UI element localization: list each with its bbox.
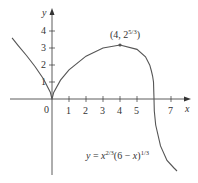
y-tick-label: 3 <box>41 42 46 53</box>
x-tick-label: 5 <box>134 105 139 116</box>
x-tick-label: 4 <box>117 105 122 116</box>
x-tick-label: 2 <box>83 105 88 116</box>
x-axis-arrow <box>184 97 191 102</box>
x-axis-label: x <box>184 103 190 114</box>
max-point-marker <box>118 43 121 46</box>
x-tick-label: 3 <box>100 105 105 116</box>
equation-label: y = x2/3(6 − x)1/3 <box>85 149 149 162</box>
chart: 1 2 3 4 5 7 x 1 2 3 4 y 0 (4, 25/3) y = … <box>0 0 198 183</box>
y-axis-arrow <box>50 8 55 15</box>
y-axis-label: y <box>41 7 47 18</box>
max-point-label: (4, 25/3) <box>110 28 140 41</box>
x-tick-label: 1 <box>66 105 71 116</box>
y-tick-label: 2 <box>41 59 46 70</box>
origin-label: 0 <box>44 104 49 115</box>
y-tick-label: 4 <box>41 25 46 36</box>
x-tick-label: 7 <box>168 105 173 116</box>
